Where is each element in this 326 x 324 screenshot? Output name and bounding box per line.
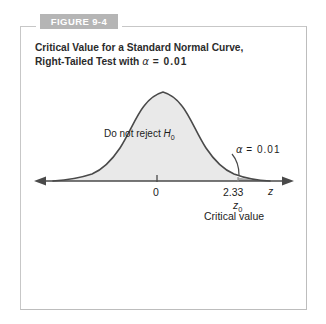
critical-value-caption: Critical value [204,210,264,222]
alpha-leader-line [232,154,239,175]
axis-tick-label-zero: 0 [153,186,159,198]
do-not-reject-label: Do not reject H0 [104,128,175,139]
caption-line-1: Critical Value for a Standard Normal Cur… [35,41,285,55]
figure-number-tab: FIGURE 9-4 [40,14,118,29]
alpha-symbol: α [236,144,243,155]
figure-number-label: FIGURE 9-4 [51,16,107,27]
figure-panel: FIGURE 9-4 Critical Value for a Standard… [0,0,326,324]
axis-right-arrowhead [282,177,294,186]
caption-line-2: Right-Tailed Test with α = 0.01 [35,55,285,69]
caption-line-2-prefix: Right-Tailed Test with [35,56,142,67]
do-not-reject-text: Do not reject [104,128,163,139]
alpha-annotation: α = 0.01 [236,144,280,155]
null-hypothesis-symbol: H [163,128,170,139]
caption-line-2-value: = 0.01 [149,56,187,67]
alpha-value: = 0.01 [243,144,281,155]
figure-caption: Critical Value for a Standard Normal Cur… [35,41,285,69]
axis-variable-label: z [268,185,273,197]
axis-left-arrowhead [34,177,46,186]
alpha-symbol-caption: α [142,56,149,67]
null-hypothesis-subscript: 0 [171,134,175,142]
axis-tick-label-critical: 2.33 [223,186,243,198]
